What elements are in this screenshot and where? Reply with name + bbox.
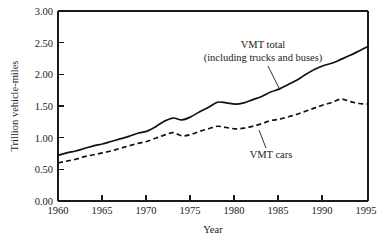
annotation-vmt-total: VMT total (including trucks and buses) bbox=[204, 39, 323, 90]
annotation-vmt-total-leader bbox=[268, 66, 280, 90]
annotation-vmt-cars: VMT cars bbox=[250, 130, 293, 160]
annotation-vmt-total-line2: (including trucks and buses) bbox=[204, 52, 323, 64]
y-tick-label-1-00: 1.00 bbox=[35, 133, 53, 144]
line-chart: 3.00 2.50 2.00 1.50 1.00 0.50 0.00 1960 … bbox=[0, 0, 389, 244]
x-axis-title: Year bbox=[203, 224, 223, 235]
chart-figure: 3.00 2.50 2.00 1.50 1.00 0.50 0.00 1960 … bbox=[0, 0, 389, 244]
annotation-vmt-cars-line1: VMT cars bbox=[250, 149, 293, 160]
y-axis-title: Trillion vehicle-miles bbox=[9, 61, 20, 152]
y-tick-label-1-50: 1.50 bbox=[35, 101, 53, 112]
x-tick-marks bbox=[58, 195, 368, 201]
y-tick-label-2-50: 2.50 bbox=[35, 38, 53, 49]
x-tick-label-1980: 1980 bbox=[224, 205, 245, 216]
annotation-vmt-total-line1: VMT total bbox=[241, 39, 286, 50]
x-tick-labels: 1960 1965 1970 1975 1980 1985 1990 1995 bbox=[48, 205, 377, 216]
y-tick-marks bbox=[58, 11, 64, 201]
x-tick-label-1960: 1960 bbox=[48, 205, 69, 216]
y-tick-label-3-00: 3.00 bbox=[35, 6, 53, 17]
x-tick-label-1965: 1965 bbox=[92, 205, 113, 216]
y-tick-label-2-00: 2.00 bbox=[35, 69, 53, 80]
x-tick-label-1970: 1970 bbox=[136, 205, 157, 216]
x-tick-label-1975: 1975 bbox=[180, 205, 201, 216]
annotation-vmt-cars-leader bbox=[259, 130, 266, 148]
x-tick-label-1985: 1985 bbox=[268, 205, 289, 216]
y-tick-labels: 3.00 2.50 2.00 1.50 1.00 0.50 0.00 bbox=[35, 6, 53, 207]
x-tick-label-1990: 1990 bbox=[312, 205, 333, 216]
x-tick-label-1995: 1995 bbox=[356, 205, 377, 216]
series-line-vmt-cars bbox=[58, 99, 368, 163]
y-tick-label-0-50: 0.50 bbox=[35, 164, 53, 175]
